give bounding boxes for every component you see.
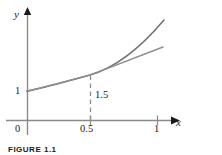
x-tick-label-half: 0.5 (80, 124, 93, 135)
y-axis-arrow-icon (24, 7, 31, 15)
tangent-line (27, 47, 163, 92)
figure-container: y x 0 1 0.5 1 1.5 FIGURE 1.1 (0, 0, 222, 155)
x-axis-label: x (176, 117, 181, 128)
annotation-value-label: 1.5 (95, 90, 108, 101)
plot-area (0, 0, 222, 155)
x-tick-label-one: 1 (154, 124, 159, 135)
figure-caption: FIGURE 1.1 (8, 146, 57, 155)
origin-label: 0 (15, 124, 20, 135)
y-tick-label-one: 1 (15, 86, 20, 97)
y-axis-label: y (14, 9, 19, 20)
function-curve (27, 20, 164, 91)
